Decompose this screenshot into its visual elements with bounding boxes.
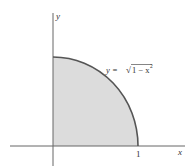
x-tick-1: 1 <box>136 149 141 159</box>
svg-text:√: √ <box>126 65 131 75</box>
curve-label: y = √ 1 − x 2 <box>105 63 153 75</box>
svg-text:1 − x: 1 − x <box>132 65 150 75</box>
y-axis-label: y <box>55 11 60 21</box>
svg-text:y =: y = <box>105 65 118 75</box>
quarter-circle-plot: y x 1 y = √ 1 − x 2 <box>0 0 193 168</box>
svg-text:2: 2 <box>150 63 153 69</box>
x-axis-label: x <box>177 147 182 157</box>
